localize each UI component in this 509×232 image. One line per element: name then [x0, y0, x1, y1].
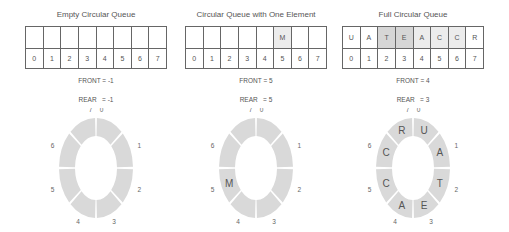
ring-index-7: 7 — [249, 108, 253, 113]
circular-ring: U0A1T2E3A4C5C6R7 — [342, 108, 484, 232]
index-2: 2 — [61, 49, 79, 69]
cell-7 — [149, 27, 167, 49]
panel-title: Circular Queue with One Element — [185, 10, 327, 19]
front-pointer: FRONT = -1 — [25, 77, 167, 84]
ring-index-3: 3 — [272, 218, 276, 225]
cell-4 — [256, 27, 274, 49]
ring-value-1: A — [436, 147, 443, 158]
index-row: 0 1 2 3 4 5 6 7 — [26, 49, 167, 69]
cell-1 — [203, 27, 221, 49]
rear-pointer: REAR = 5 — [185, 96, 327, 103]
panel-full-queue: Full Circular Queue U A T E A C C R 0 1 … — [342, 0, 484, 232]
index-4: 4 — [413, 49, 431, 69]
ring-value-5: C — [383, 178, 390, 189]
ring-index-4: 4 — [236, 218, 240, 225]
index-5: 5 — [114, 49, 132, 69]
cell-6 — [131, 27, 149, 49]
index-0: 0 — [26, 49, 44, 69]
ring-index-1: 1 — [455, 142, 459, 149]
ring-index-0: 0 — [417, 108, 421, 113]
ring-index-6: 6 — [368, 142, 372, 149]
ring-index-1: 1 — [298, 142, 302, 149]
ring-value-3: E — [421, 200, 428, 211]
index-1: 1 — [203, 49, 221, 69]
ring-index-0: 0 — [260, 108, 264, 113]
index-4: 4 — [96, 49, 114, 69]
ring-value-0: U — [420, 125, 427, 136]
ring-index-3: 3 — [112, 218, 116, 225]
index-7: 7 — [466, 49, 484, 69]
cell-4 — [96, 27, 114, 49]
ring-index-5: 5 — [211, 186, 215, 193]
panel-title: Full Circular Queue — [342, 10, 484, 19]
ring-index-6: 6 — [211, 142, 215, 149]
index-5: 5 — [274, 49, 292, 69]
cell-0: U — [343, 27, 361, 49]
ring-index-0: 0 — [100, 108, 104, 113]
queue-array-table: U A T E A C C R 0 1 2 3 4 5 6 7 — [342, 26, 484, 69]
cell-3: E — [395, 27, 413, 49]
ring-index-5: 5 — [368, 186, 372, 193]
ring-value-6: C — [383, 147, 390, 158]
front-pointer: FRONT = 5 — [185, 77, 327, 84]
circular-ring: 01234M567 — [185, 108, 327, 232]
rear-pointer: REAR = 3 — [342, 96, 484, 103]
index-6: 6 — [291, 49, 309, 69]
index-5: 5 — [431, 49, 449, 69]
cell-7 — [309, 27, 327, 49]
queue-array-table: M 0 1 2 3 4 5 6 7 — [185, 26, 327, 69]
ring-index-5: 5 — [51, 186, 55, 193]
ring-index-2: 2 — [138, 186, 142, 193]
index-3: 3 — [238, 49, 256, 69]
index-3: 3 — [395, 49, 413, 69]
ring-index-4: 4 — [76, 218, 80, 225]
index-4: 4 — [256, 49, 274, 69]
index-1: 1 — [360, 49, 378, 69]
index-1: 1 — [43, 49, 61, 69]
cell-6 — [291, 27, 309, 49]
ring-value-7: R — [398, 125, 405, 136]
value-row — [26, 27, 167, 49]
index-row: 0 1 2 3 4 5 6 7 — [343, 49, 484, 69]
index-row: 0 1 2 3 4 5 6 7 — [186, 49, 327, 69]
cell-1 — [43, 27, 61, 49]
circular-ring: 01234567 — [25, 108, 167, 232]
ring-value-5: M — [225, 178, 233, 189]
front-pointer: FRONT = 4 — [342, 77, 484, 84]
index-2: 2 — [221, 49, 239, 69]
panel-one-element-queue: Circular Queue with One Element M 0 1 2 … — [185, 0, 327, 232]
cell-0 — [186, 27, 204, 49]
ring-value-4: A — [399, 200, 406, 211]
ring-index-7: 7 — [406, 108, 410, 113]
cell-1: A — [360, 27, 378, 49]
cell-3 — [238, 27, 256, 49]
panel-empty-queue: Empty Circular Queue 0 1 2 3 4 5 6 7 FRO… — [25, 0, 167, 232]
ring-index-2: 2 — [298, 186, 302, 193]
ring-index-1: 1 — [138, 142, 142, 149]
index-0: 0 — [186, 49, 204, 69]
queue-array-table: 0 1 2 3 4 5 6 7 — [25, 26, 167, 69]
panel-title: Empty Circular Queue — [25, 10, 167, 19]
cell-6: C — [448, 27, 466, 49]
cell-3 — [78, 27, 96, 49]
index-3: 3 — [78, 49, 96, 69]
cell-2 — [61, 27, 79, 49]
index-2: 2 — [378, 49, 396, 69]
cell-2: T — [378, 27, 396, 49]
ring-index-6: 6 — [51, 142, 55, 149]
index-6: 6 — [448, 49, 466, 69]
cell-7: R — [466, 27, 484, 49]
index-7: 7 — [309, 49, 327, 69]
index-7: 7 — [149, 49, 167, 69]
cell-5: C — [431, 27, 449, 49]
ring-index-7: 7 — [89, 108, 93, 113]
value-row: M — [186, 27, 327, 49]
ring-index-4: 4 — [393, 218, 397, 225]
cell-4: A — [413, 27, 431, 49]
value-row: U A T E A C C R — [343, 27, 484, 49]
ring-index-2: 2 — [455, 186, 459, 193]
index-6: 6 — [131, 49, 149, 69]
cell-0 — [26, 27, 44, 49]
ring-value-2: T — [437, 178, 443, 189]
index-0: 0 — [343, 49, 361, 69]
